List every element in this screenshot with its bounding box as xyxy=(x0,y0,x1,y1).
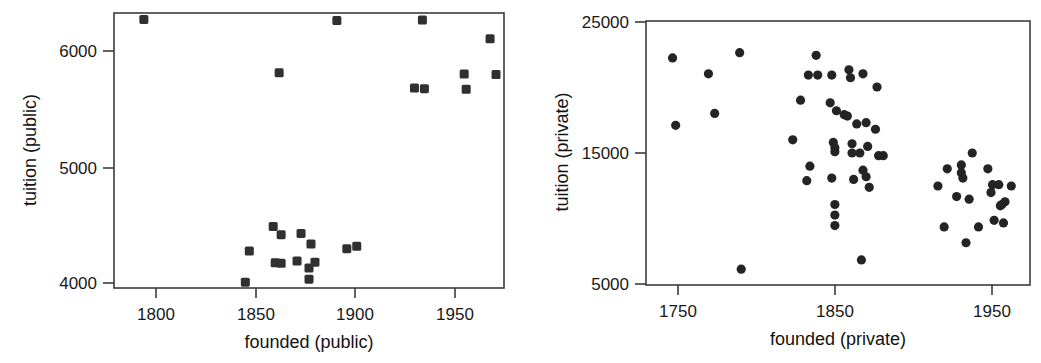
y-axis-title-public: tuition (public) xyxy=(20,94,40,206)
data-point-private xyxy=(804,71,813,80)
data-point-private xyxy=(843,111,852,120)
data-point-public xyxy=(277,230,286,239)
data-point-private xyxy=(968,148,977,157)
y-axis-private: 25000 15000 5000 xyxy=(582,13,646,294)
data-point-private xyxy=(830,210,839,219)
data-point-private xyxy=(855,148,864,157)
data-point-public xyxy=(306,240,315,249)
data-point-private xyxy=(952,192,961,201)
data-point-private xyxy=(832,106,841,115)
panel-private: 25000 15000 5000 1750 1850 1950 founded … xyxy=(520,0,1041,363)
data-point-public xyxy=(293,257,302,266)
data-point-private xyxy=(872,82,881,91)
data-point-private xyxy=(990,216,999,225)
data-point-private xyxy=(957,160,966,169)
data-point-public xyxy=(139,15,148,24)
panel-public: 6000 5000 4000 1800 1850 1900 1950 found… xyxy=(0,0,520,363)
data-point-private xyxy=(710,109,719,118)
data-point-private xyxy=(788,135,797,144)
data-point-private xyxy=(871,125,880,134)
panel-private-svg: 25000 15000 5000 1750 1850 1950 founded … xyxy=(520,0,1041,363)
y-tick-label-15000: 15000 xyxy=(582,144,629,163)
x-tick-label-1950: 1950 xyxy=(436,305,474,324)
data-point-private xyxy=(827,173,836,182)
data-point-private xyxy=(857,255,866,264)
y-tick-label-4000: 4000 xyxy=(59,274,97,293)
scatter-plot-figure: 6000 5000 4000 1800 1850 1900 1950 found… xyxy=(0,0,1041,363)
data-point-public xyxy=(297,229,306,238)
data-markers-private xyxy=(668,48,1016,274)
data-point-private xyxy=(863,142,872,151)
data-point-private xyxy=(983,164,992,173)
data-point-private xyxy=(849,175,858,184)
data-point-public xyxy=(410,84,419,93)
data-point-private xyxy=(805,162,814,171)
data-point-private xyxy=(668,53,677,62)
data-point-public xyxy=(492,70,501,79)
data-point-private xyxy=(933,181,942,190)
data-point-private xyxy=(943,164,952,173)
x-tick-label-1950: 1950 xyxy=(973,302,1011,321)
data-point-public xyxy=(305,264,314,273)
data-point-private xyxy=(830,200,839,209)
data-point-private xyxy=(671,121,680,130)
data-point-private xyxy=(940,222,949,231)
x-axis-title-public: founded (public) xyxy=(244,332,373,352)
data-point-public xyxy=(277,259,286,268)
y-axis-public: 6000 5000 4000 xyxy=(59,42,114,293)
x-axis-private: 1750 1850 1950 xyxy=(659,285,1011,321)
data-point-private xyxy=(812,51,821,60)
data-point-public xyxy=(462,85,471,94)
data-point-public xyxy=(460,69,469,78)
data-point-private xyxy=(986,188,995,197)
data-point-private xyxy=(826,98,835,107)
panel-public-svg: 6000 5000 4000 1800 1850 1900 1950 found… xyxy=(0,0,520,363)
x-tick-label-1850: 1850 xyxy=(237,305,275,324)
x-tick-label-1850: 1850 xyxy=(816,302,854,321)
data-point-public xyxy=(245,247,254,256)
data-point-public xyxy=(305,275,314,284)
y-tick-label-6000: 6000 xyxy=(59,42,97,61)
data-point-private xyxy=(852,119,861,128)
data-point-private xyxy=(847,139,856,148)
y-tick-label-25000: 25000 xyxy=(582,13,629,32)
data-point-private xyxy=(813,71,822,80)
data-point-private xyxy=(796,96,805,105)
data-point-private xyxy=(974,222,983,231)
data-point-private xyxy=(846,73,855,82)
data-point-private xyxy=(965,195,974,204)
y-tick-label-5000: 5000 xyxy=(59,159,97,178)
data-point-private xyxy=(858,69,867,78)
data-point-private xyxy=(735,48,744,57)
data-point-private xyxy=(1007,181,1016,190)
data-markers-public xyxy=(139,15,500,287)
x-tick-label-1800: 1800 xyxy=(137,305,175,324)
data-point-private xyxy=(862,172,871,181)
x-axis-public: 1800 1850 1900 1950 xyxy=(137,288,474,324)
x-axis-title-private: founded (private) xyxy=(770,329,906,349)
data-point-private xyxy=(961,238,970,247)
data-point-public xyxy=(352,242,361,251)
y-tick-label-5000: 5000 xyxy=(591,275,629,294)
data-point-public xyxy=(332,16,341,25)
data-point-public xyxy=(418,16,427,25)
data-point-private xyxy=(827,71,836,80)
data-point-public xyxy=(241,278,250,287)
data-point-public xyxy=(269,222,278,231)
data-point-private xyxy=(844,65,853,74)
data-point-public xyxy=(275,68,284,77)
data-point-public xyxy=(342,244,351,253)
data-point-private xyxy=(802,176,811,185)
data-point-public xyxy=(420,84,429,93)
data-point-private xyxy=(865,183,874,192)
data-point-private xyxy=(999,218,1008,227)
data-point-private xyxy=(704,69,713,78)
data-point-public xyxy=(486,34,495,43)
data-point-private xyxy=(879,151,888,160)
data-point-private xyxy=(862,118,871,127)
data-point-private xyxy=(830,147,839,156)
y-axis-title-private: tuition (private) xyxy=(552,92,572,211)
data-point-private xyxy=(994,180,1003,189)
data-point-private xyxy=(737,265,746,274)
data-point-private xyxy=(1000,197,1009,206)
